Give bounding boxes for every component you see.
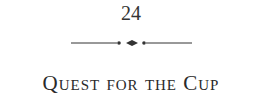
chapter-title: Quest for the Cup [0, 70, 262, 96]
ornament-divider-icon [71, 38, 192, 48]
chapter-number: 24 [0, 1, 262, 25]
